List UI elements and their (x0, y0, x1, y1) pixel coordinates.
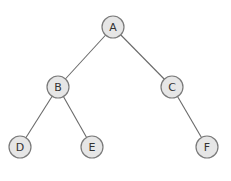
node-e: E (81, 136, 103, 158)
node-label: B (54, 81, 62, 94)
node-a: A (102, 16, 124, 38)
node-b: B (47, 76, 69, 98)
node-label: F (204, 141, 210, 154)
node-d: D (9, 136, 31, 158)
node-f: F (196, 136, 218, 158)
tree-diagram: A B C D E F (0, 0, 231, 181)
edge-a-b (58, 27, 113, 87)
node-label: D (16, 141, 24, 154)
edge-a-c (113, 27, 172, 87)
node-label: E (89, 141, 96, 154)
node-c: C (161, 76, 183, 98)
node-label: C (168, 81, 176, 94)
node-label: A (109, 21, 117, 34)
